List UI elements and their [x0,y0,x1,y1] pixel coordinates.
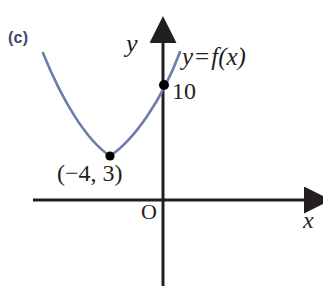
function-label-equals: = [193,43,211,70]
function-label-lhs: y [182,43,193,70]
origin-label: O [141,201,157,223]
graph-svg [0,0,323,296]
y-intercept-label: 10 [172,79,196,103]
y-axis-label: y [126,31,138,57]
vertex-label: (−4, 3) [57,161,123,185]
function-label-rhs: f(x) [211,43,246,70]
part-label: (c) [8,30,28,46]
y-intercept-point [159,80,169,90]
x-axis-label: x [303,208,314,232]
parabola-curve [43,52,180,156]
function-label: y=f(x) [182,44,246,69]
figure-canvas: (c) y x y=f(x) 10 (−4, 3) O [0,0,323,296]
